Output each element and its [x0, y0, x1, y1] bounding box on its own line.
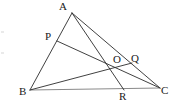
segment-cevian-BQ [30, 63, 132, 90]
point-label-C: C [161, 85, 168, 96]
point-label-Q: Q [131, 53, 139, 64]
triangle-sides [30, 13, 160, 90]
geometry-figure: A B C P Q R O [0, 0, 176, 112]
point-label-R: R [119, 91, 126, 102]
segment-baseline-BC [30, 88, 160, 90]
point-label-B: B [19, 86, 26, 97]
geometry-canvas [0, 0, 176, 112]
point-label-O: O [113, 54, 121, 65]
segment-side-AC [72, 13, 160, 88]
scan-artifact-left-lower [1, 52, 4, 54]
point-label-A: A [59, 1, 67, 12]
scan-artifact-left-upper [1, 31, 4, 33]
point-label-P: P [45, 31, 51, 42]
segment-side-AB [30, 13, 72, 90]
cevians [30, 13, 160, 90]
segment-cevian-PC [57, 41, 160, 88]
